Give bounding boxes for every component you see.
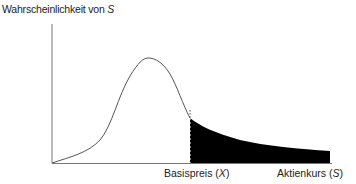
shaded-tail-area (190, 118, 330, 163)
x-axis-label-prefix: Aktienkurs ( (277, 167, 332, 179)
strike-label-suffix: ) (226, 167, 230, 179)
x-axis-label-suffix: ) (339, 167, 343, 179)
density-chart (0, 0, 356, 184)
x-axis-label: Aktienkurs (S) (277, 167, 343, 179)
strike-label-prefix: Basispreis ( (164, 167, 219, 179)
strike-label-var: X (219, 167, 226, 179)
strike-price-label: Basispreis (X) (164, 167, 229, 179)
density-curve (52, 58, 190, 163)
